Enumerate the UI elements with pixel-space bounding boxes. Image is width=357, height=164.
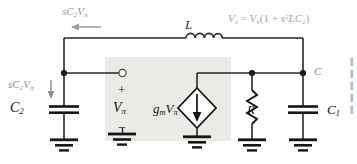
edge-text-fragment: ▌ bbox=[351, 106, 355, 114]
label-resistor-R: R bbox=[247, 103, 255, 116]
edge-text-fragment: ▌ bbox=[351, 70, 355, 78]
label-node-c: C bbox=[314, 66, 321, 77]
label-capacitor-C2: C2 bbox=[10, 101, 24, 116]
ground-source-symbol bbox=[183, 135, 211, 148]
arrow-top-left-icon bbox=[71, 24, 101, 31]
node-input-terminal-circle bbox=[119, 69, 126, 76]
edge-text-fragment: ▌ bbox=[351, 94, 355, 102]
ground-c2-symbol bbox=[50, 138, 78, 151]
inductor-L-symbol bbox=[186, 33, 222, 38]
label-inductor-L: L bbox=[185, 18, 192, 31]
label-top-left-current: sC2Vπ bbox=[62, 6, 87, 19]
ground-c1-symbol bbox=[289, 138, 317, 151]
label-capacitor-C1: C1 bbox=[327, 103, 340, 118]
label-vpi: Vπ bbox=[113, 101, 126, 116]
capacitor-C1-symbol bbox=[288, 105, 318, 114]
circuit-figure: sC2Vπ Vx = Vπ(1 + s2LC2) L sC2Vπ C2 + Vπ… bbox=[0, 0, 357, 164]
label-c2-branch-current: sC2Vπ bbox=[8, 79, 33, 92]
edge-text-fragment: ▌ bbox=[351, 58, 355, 66]
label-polarity-minus: − bbox=[118, 121, 126, 135]
label-gm-vpi: gmVπ bbox=[153, 102, 178, 117]
arrow-c2-branch-icon bbox=[48, 80, 55, 99]
edge-text-fragment: ▌ bbox=[351, 82, 355, 90]
label-polarity-plus: + bbox=[118, 83, 125, 96]
ground-r-symbol bbox=[238, 138, 266, 151]
capacitor-C2-symbol bbox=[49, 105, 79, 114]
label-vx-equation: Vx = Vπ(1 + s2LC2) bbox=[228, 13, 309, 26]
